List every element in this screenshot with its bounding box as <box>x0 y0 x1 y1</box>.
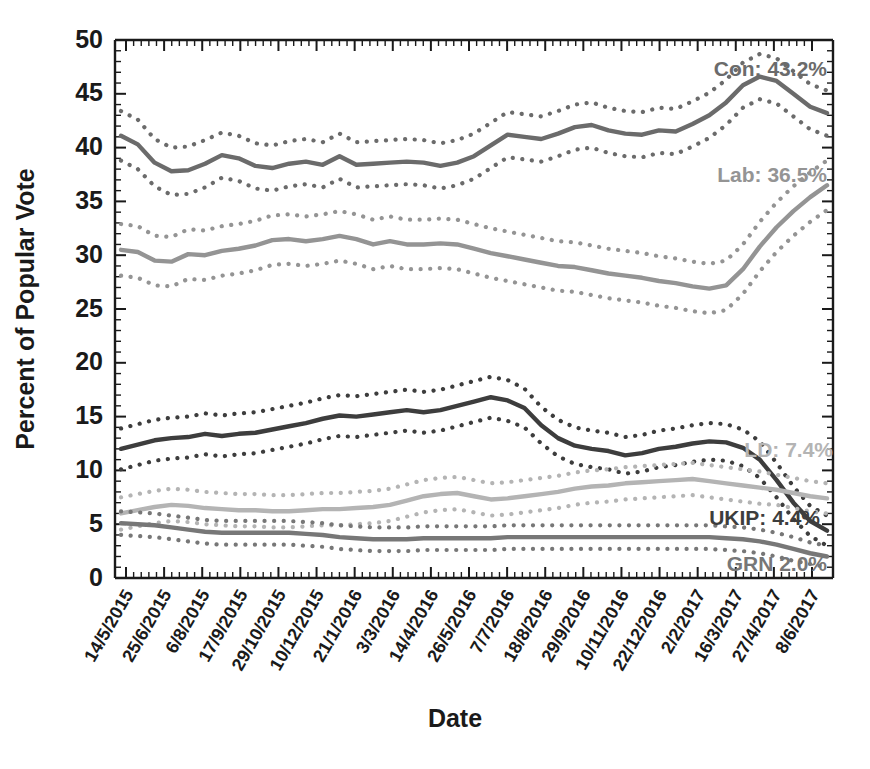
y-tick-label-25: 25 <box>75 294 103 322</box>
series-label-ukip: UKIP: 4.4% <box>709 506 820 529</box>
y-tick-label-30: 30 <box>75 240 103 268</box>
x-axis-title: Date <box>428 704 482 732</box>
y-tick-label-5: 5 <box>89 509 103 537</box>
poll-tracker-chart: 05101520253035404550 14/5/201525/6/20156… <box>0 0 870 769</box>
y-tick-label-10: 10 <box>75 455 103 483</box>
y-tick-label-20: 20 <box>75 347 103 375</box>
series-label-ld: LD: 7.4% <box>744 438 833 461</box>
y-axis-title: Percent of Popular Vote <box>11 168 39 450</box>
series-label-con: Con: 43.2% <box>714 57 828 80</box>
y-tick-label-15: 15 <box>75 401 103 429</box>
chart-canvas: 05101520253035404550 14/5/201525/6/20156… <box>0 0 870 769</box>
y-tick-label-0: 0 <box>89 563 103 591</box>
y-tick-label-50: 50 <box>75 25 103 53</box>
series-label-lab: Lab: 36.5% <box>717 163 827 186</box>
series-label-grn: GRN 2.0% <box>727 552 828 575</box>
y-tick-label-40: 40 <box>75 132 103 160</box>
y-tick-label-35: 35 <box>75 186 103 214</box>
y-tick-label-45: 45 <box>75 78 103 106</box>
